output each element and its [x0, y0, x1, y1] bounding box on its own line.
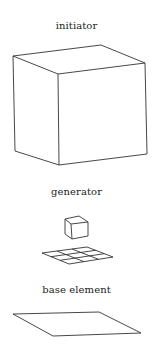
generator-cube: [65, 216, 88, 239]
base-element-square: [13, 312, 141, 336]
generator-grid: [42, 247, 113, 264]
diagram-canvas: [0, 0, 153, 349]
initiator-cube: [13, 45, 147, 165]
